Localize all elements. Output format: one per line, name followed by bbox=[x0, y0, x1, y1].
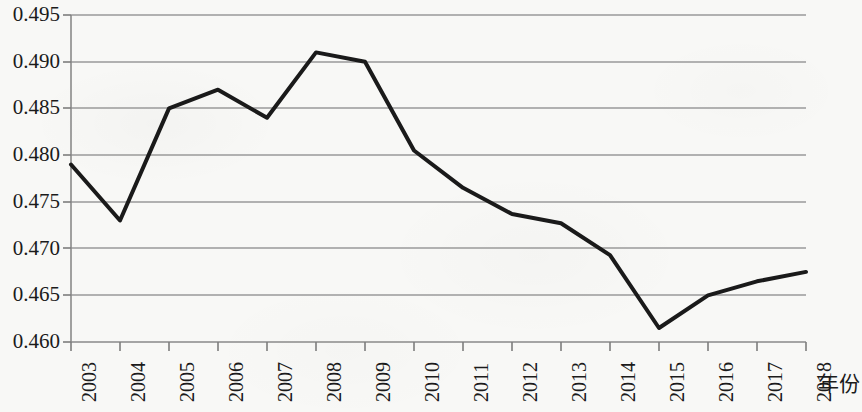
y-tick-label: 0.490 bbox=[13, 51, 60, 72]
y-tick-label: 0.460 bbox=[13, 331, 60, 352]
x-tick-label: 2015 bbox=[667, 362, 687, 402]
x-tick-label: 2009 bbox=[373, 362, 393, 402]
x-tick-label: 2006 bbox=[226, 362, 246, 402]
y-gridlines bbox=[71, 15, 806, 295]
x-tick-label: 2004 bbox=[128, 362, 148, 402]
x-tick-label: 2014 bbox=[618, 362, 638, 402]
y-tick-label: 0.495 bbox=[13, 4, 60, 25]
data-series-line bbox=[71, 52, 806, 328]
y-tick-label: 0.465 bbox=[13, 284, 60, 305]
x-tick-label: 2011 bbox=[471, 363, 491, 402]
x-tick-marks bbox=[71, 342, 806, 351]
x-axis-title: 年份 bbox=[818, 374, 860, 395]
x-tick-label: 2005 bbox=[177, 362, 197, 402]
x-tick-label: 2008 bbox=[324, 362, 344, 402]
y-tick-marks bbox=[63, 15, 71, 342]
x-tick-label: 2010 bbox=[422, 362, 442, 402]
line-chart-figure: 0.4950.4900.4850.4800.4750.4700.4650.460… bbox=[0, 0, 862, 412]
x-tick-label: 2003 bbox=[79, 362, 99, 402]
x-tick-label: 2012 bbox=[520, 362, 540, 402]
x-tick-label: 2013 bbox=[569, 362, 589, 402]
y-tick-label: 0.485 bbox=[13, 97, 60, 118]
y-tick-label: 0.475 bbox=[13, 191, 60, 212]
x-tick-label: 2017 bbox=[765, 362, 785, 402]
x-tick-label: 2016 bbox=[716, 362, 736, 402]
y-tick-label: 0.470 bbox=[13, 238, 60, 259]
x-tick-label: 2007 bbox=[275, 362, 295, 402]
y-tick-label: 0.480 bbox=[13, 144, 60, 165]
plot-area bbox=[0, 0, 862, 412]
